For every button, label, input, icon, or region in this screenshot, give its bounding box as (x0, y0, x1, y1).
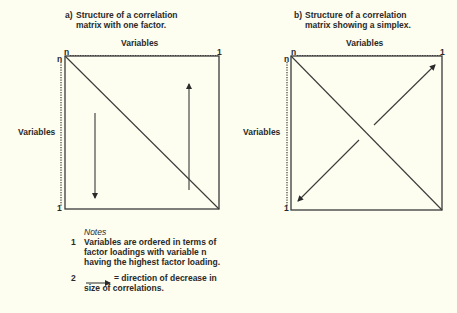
matrix-a (61, 56, 219, 210)
arrow-down-left-icon (298, 140, 359, 201)
notes: Notes 1 Variables are ordered in terms o… (69, 227, 234, 293)
note-1-text: Variables are ordered in terms of factor… (84, 237, 220, 267)
matrix-b (287, 56, 442, 211)
note-1: 1 Variables are ordered in terms of fact… (69, 237, 234, 267)
note-2-number: 2 (71, 273, 76, 283)
note-2-text: = direction of decrease in size of corre… (84, 273, 217, 293)
note-1-number: 1 (71, 237, 76, 247)
note-2: 2 = direction of decrease in size of cor… (69, 273, 234, 293)
arrow-up-right-icon (374, 65, 435, 125)
notes-title: Notes (84, 227, 234, 237)
